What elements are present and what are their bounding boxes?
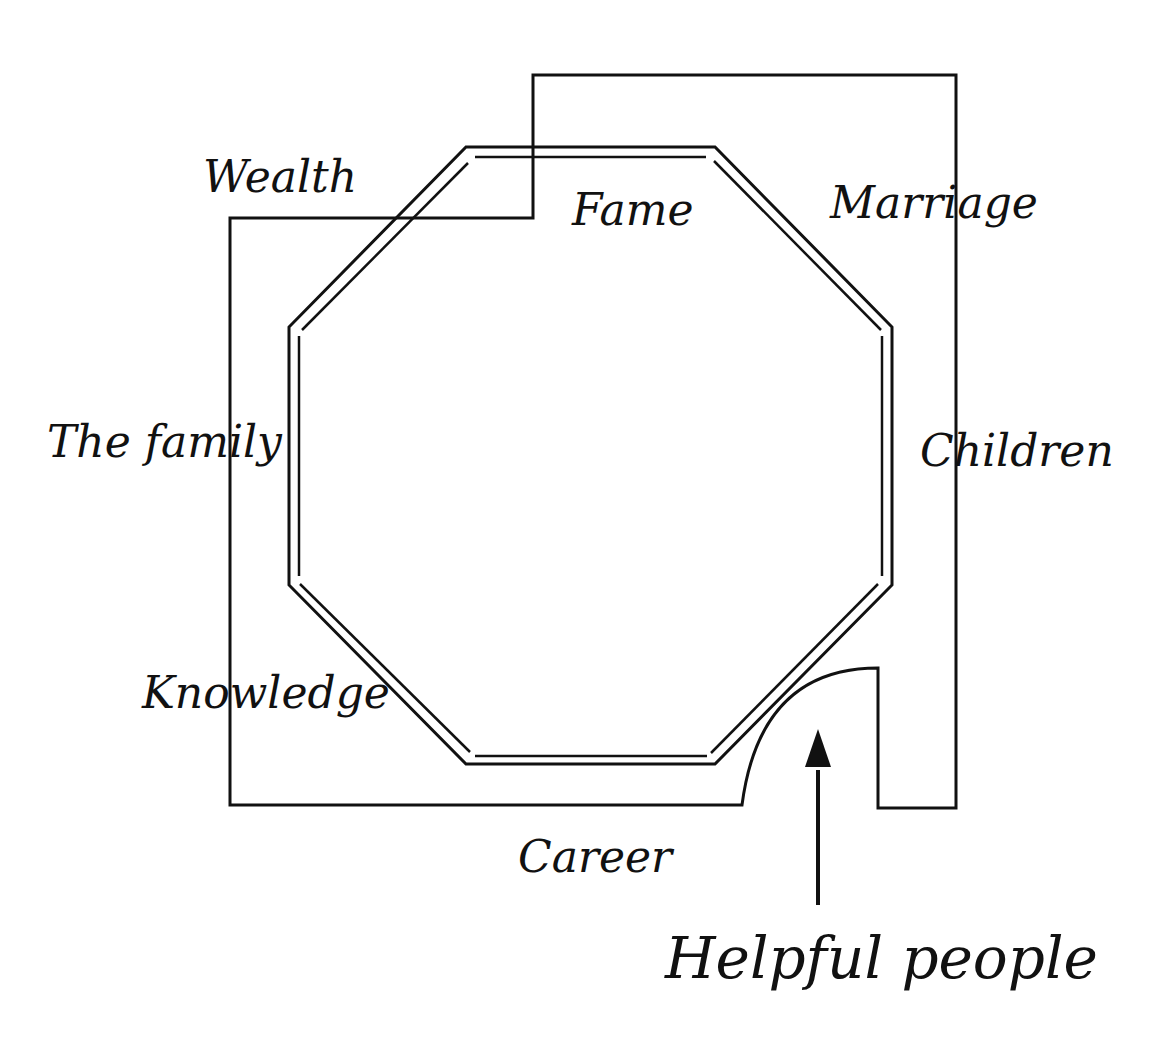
label-helpful-people: Helpful people <box>664 924 1098 992</box>
arrow-up-icon <box>805 729 831 905</box>
label-knowledge: Knowledge <box>141 667 390 718</box>
label-children: Children <box>920 425 1114 476</box>
label-marriage: Marriage <box>829 177 1038 228</box>
label-fame: Fame <box>571 184 694 235</box>
label-wealth: Wealth <box>203 151 357 202</box>
bagua-floor-plan-diagram: Wealth Fame Marriage The family Children… <box>0 0 1161 1056</box>
label-the-family: The family <box>47 416 283 467</box>
label-career: Career <box>518 831 675 882</box>
